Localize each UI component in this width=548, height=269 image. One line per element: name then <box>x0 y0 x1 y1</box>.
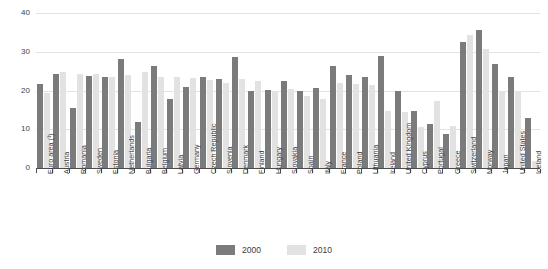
x-axis-label: Latvia <box>177 155 185 174</box>
x-axis-label: Euro area (¹) <box>47 133 55 174</box>
y-axis-tick-label: 30 <box>0 48 30 56</box>
x-axis-label: Norway <box>486 150 494 174</box>
x-axis-label: Slovenia <box>226 146 234 174</box>
x-axis-label: Bulgaria <box>145 148 153 174</box>
x-axis-label: Cyprus <box>421 151 429 174</box>
bar-group <box>296 13 312 168</box>
bar-group <box>280 13 296 168</box>
legend-item-2010: 2010 <box>287 245 332 255</box>
bar-group <box>345 13 361 168</box>
bars-layer <box>36 13 540 168</box>
y-axis-tick-label: 40 <box>0 9 30 17</box>
bar-group <box>442 13 458 168</box>
x-axis-label: Lithuania <box>372 145 380 174</box>
x-axis-label: Belgium <box>161 148 169 174</box>
bar-2010 <box>320 99 326 168</box>
x-axis-label: Denmark <box>242 145 250 174</box>
x-axis-label: Hungary <box>275 147 283 174</box>
legend-item-2000: 2000 <box>216 245 261 255</box>
x-axis-label: Germany <box>193 144 201 174</box>
y-axis-tick-label: 20 <box>0 87 30 95</box>
bar-group <box>329 13 345 168</box>
y-axis-tick-label: 0 <box>0 164 30 172</box>
x-axis-label: Romania <box>80 145 88 174</box>
bar-group <box>264 13 280 168</box>
bar-group <box>101 13 117 168</box>
x-axis-label: Netherlands <box>128 135 136 174</box>
legend-label-2000: 2000 <box>242 246 261 255</box>
bar-2000 <box>330 66 336 168</box>
bar-group <box>426 13 442 168</box>
y-axis-tick-label: 10 <box>0 125 30 133</box>
x-axis-label: France <box>340 152 348 174</box>
bar-chart: Euro area (¹)AustriaRomaniaSwedenEstonia… <box>0 0 548 269</box>
x-axis-label: Czech Republic <box>210 124 218 174</box>
x-axis-label: Slovakia <box>291 147 299 174</box>
x-axis-label: Ireland <box>389 152 397 174</box>
bar-group <box>491 13 507 168</box>
x-axis-label: Greece <box>454 150 462 174</box>
x-axis-tick <box>36 169 37 173</box>
bar-group <box>312 13 328 168</box>
x-axis-label: United Kingdom <box>405 123 413 174</box>
x-axis-label: Austria <box>63 152 71 174</box>
bar-2000 <box>37 84 43 168</box>
bar-group <box>166 13 182 168</box>
x-axis-label: Finland <box>258 150 266 174</box>
legend-swatch-2000 <box>216 245 235 255</box>
x-axis-label: Poland <box>356 152 364 174</box>
x-axis-labels: Euro area (¹)AustriaRomaniaSwedenEstonia… <box>36 174 540 236</box>
x-axis-label: Iceland <box>535 151 543 174</box>
x-axis-label: United States <box>519 131 527 174</box>
legend-swatch-2010 <box>287 245 306 255</box>
x-axis-label: Estonia <box>112 150 120 174</box>
chart-legend: 2000 2010 <box>0 245 548 255</box>
x-axis-label: Sweden <box>96 148 104 174</box>
x-axis-label: Spain <box>307 156 315 174</box>
x-axis-label: Italy <box>324 161 332 174</box>
legend-label-2010: 2010 <box>313 246 332 255</box>
x-axis-label: Japan <box>502 154 510 174</box>
bar-group <box>150 13 166 168</box>
x-axis-label: Portugal <box>437 147 445 174</box>
bar-2000 <box>460 42 466 168</box>
x-axis-label: Switzerland <box>470 137 478 174</box>
